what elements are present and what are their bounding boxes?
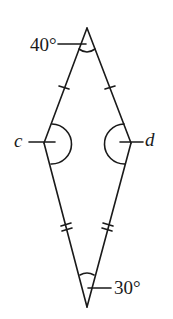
double-tick-bottom-right-1 [103, 223, 113, 226]
angle-arc-bottom [80, 273, 94, 275]
angle-label-c: c [14, 131, 22, 150]
angle-label-bottom: 30° [114, 278, 141, 297]
kite-diagram [0, 0, 173, 319]
angle-label-top: 40° [30, 35, 57, 54]
angle-arc-left [51, 124, 72, 164]
side-top-right [87, 28, 131, 143]
angle-label-d: d [145, 130, 155, 149]
angle-arc-right [104, 124, 125, 164]
angle-arc-top [79, 49, 95, 52]
